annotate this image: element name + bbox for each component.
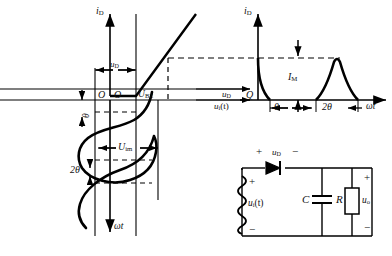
diode-plus-label: + (256, 146, 262, 157)
diode-triangle (266, 162, 280, 174)
uim-label: Uim (118, 142, 132, 153)
threshold-label: UBZ (138, 90, 153, 100)
origin-label-right: O (114, 90, 121, 100)
double-theta-label-right: 2θ (322, 102, 332, 112)
sinusoid-helper (79, 100, 150, 151)
resistor-label: R (336, 194, 343, 205)
origin-label-left: O (98, 90, 105, 100)
source-minus-label: − (249, 224, 255, 235)
source-plus-label: + (249, 176, 255, 187)
input-time-axis-label: ωt (114, 222, 123, 232)
double-theta-label-left: 2θ (70, 165, 80, 175)
output-minus-label: − (364, 222, 370, 233)
pulse-2 (316, 59, 358, 100)
resistor-body (345, 188, 359, 214)
ui-axis-label: ui(t) (214, 102, 229, 111)
diode-minus-label: − (292, 146, 298, 157)
diode-voltage-label: uD (272, 148, 281, 157)
im-label: IM (288, 72, 297, 83)
ud-axis-label: uD (222, 90, 231, 99)
bias-label: uD (110, 60, 119, 69)
output-label: uo (362, 196, 370, 206)
output-plus-label: + (364, 172, 370, 183)
pulse-origin-label: Q (246, 90, 253, 100)
transfer-y-axis-label: iD (96, 6, 104, 17)
pulse-y-axis-label: iD (244, 6, 252, 17)
theta-label-right: θ (274, 102, 279, 112)
transfer-curve (110, 14, 196, 96)
figure-canvas (0, 0, 392, 256)
figure-root: iD O O UBZ uD θ Uim 2θ ωt iD Q IM θ 2θ ω… (0, 0, 392, 256)
capacitor-label: C (302, 194, 309, 205)
pulse-1-left-edge (258, 58, 270, 100)
theta-label-left: θ (82, 113, 92, 118)
pulse-time-axis-label: ωt (366, 102, 375, 112)
source-label: ui(t) (248, 199, 264, 209)
